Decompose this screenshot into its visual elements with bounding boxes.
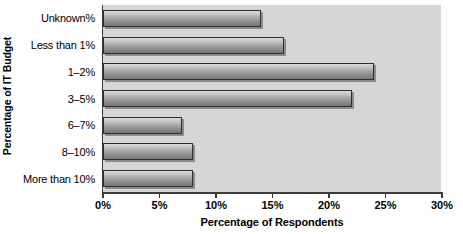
plot-area [102,5,441,192]
y-axis-tick-label: Less than 1% [14,32,99,59]
bar [103,10,261,27]
x-axis-tick [159,192,161,198]
y-axis-title: Percentage of IT Budget [0,0,14,192]
x-axis-tick [328,192,330,198]
x-axis-tick-label: 20% [318,199,340,211]
x-axis-tick-label: 25% [374,199,396,211]
y-axis-title-text: Percentage of IT Budget [1,37,13,155]
bar-series [103,5,441,192]
x-axis-tick-label: 0% [95,199,111,211]
y-axis-tick-label: Unknown% [14,5,99,32]
x-axis-tick [272,192,274,198]
bar [103,143,193,160]
bar-slot [103,32,441,59]
y-axis-tick-label: 6–7% [14,112,99,139]
x-axis-tick-label: 10% [205,199,227,211]
bar [103,170,193,187]
y-axis-tick-label: 3–5% [14,85,99,112]
y-axis-tick-label: More than 10% [14,165,99,192]
bar-slot [103,5,441,32]
bar-slot [103,85,441,112]
x-axis-tick-label: 15% [261,199,283,211]
x-axis-tick [441,192,443,198]
x-axis-tick-label: 30% [431,199,453,211]
bar-chart: Percentage of IT Budget Unknown% Less th… [0,0,463,234]
x-axis-tick [215,192,217,198]
bar [103,90,352,107]
bar [103,117,182,134]
bar-slot [103,165,441,192]
y-axis-tick-label: 8–10% [14,139,99,166]
bar-slot [103,112,441,139]
x-axis-tick [102,192,104,198]
x-axis-title: Percentage of Respondents [102,216,442,228]
y-axis-category-labels: Unknown% Less than 1% 1–2% 3–5% 6–7% 8–1… [14,5,99,192]
y-axis-tick-label: 1–2% [14,58,99,85]
x-axis-tick-label: 5% [152,199,168,211]
bar [103,63,374,80]
bar-slot [103,58,441,85]
bar-slot [103,139,441,166]
x-axis-tick [385,192,387,198]
bar [103,37,284,54]
